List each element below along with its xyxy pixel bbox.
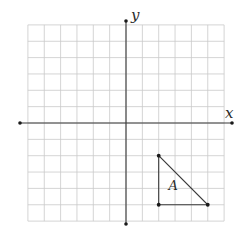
vertex-point — [157, 154, 161, 158]
vertex-point — [206, 203, 210, 207]
triangle-label: A — [168, 178, 178, 193]
vertex-point — [157, 203, 161, 207]
coordinate-plane: x y A — [0, 0, 247, 237]
triangle-a — [159, 156, 208, 205]
x-axis-left-arrow-icon — [18, 121, 22, 125]
y-axis-label: y — [130, 6, 140, 24]
y-axis-bottom-arrow-icon — [124, 222, 128, 226]
y-axis-top-arrow-icon — [124, 19, 128, 23]
x-axis-label: x — [225, 104, 234, 122]
